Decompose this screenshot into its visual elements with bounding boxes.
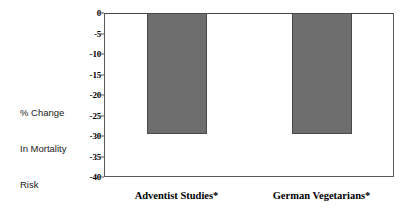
y-axis-tick-label: -10 <box>67 49 101 59</box>
x-axis-category-label: German Vegetarians* <box>273 190 371 201</box>
bar <box>147 13 207 134</box>
y-axis-tick-label: -35 <box>67 152 101 162</box>
y-axis-tick-label: -5 <box>67 29 101 39</box>
x-axis-category-label: Adventist Studies* <box>135 190 219 201</box>
y-axis-tick-label: -30 <box>67 131 101 141</box>
x-axis-category-labels: Adventist Studies*German Vegetarians* <box>104 190 394 206</box>
y-axis-tick-label: -15 <box>67 70 101 80</box>
y-axis-tick-label: -20 <box>67 90 101 100</box>
chart-screenshot: % Change In Mortality Risk 0-5-10-15-20-… <box>0 0 415 215</box>
bar <box>292 13 352 134</box>
y-axis-tick-labels: 0-5-10-15-20-25-30-35-40 <box>63 13 101 177</box>
y-axis-tick-label: -40 <box>67 172 101 182</box>
bar-series <box>104 13 394 177</box>
y-axis-tick-label: -25 <box>67 111 101 121</box>
y-axis-tick-label: 0 <box>67 8 101 18</box>
